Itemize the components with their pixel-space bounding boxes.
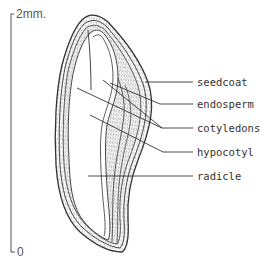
scale-bar [11,14,15,252]
scale-top-label: 2mm. [16,7,46,21]
scale-bottom-label: 0 [17,245,24,259]
seed-outline [55,15,151,252]
label-radicle: radicle [197,170,241,182]
label-cotyledons: cotyledons [197,122,260,134]
label-hypocotyl: hypocotyl [197,146,254,158]
label-seedcoat: seedcoat [197,76,248,88]
label-endosperm: endosperm [197,98,254,110]
